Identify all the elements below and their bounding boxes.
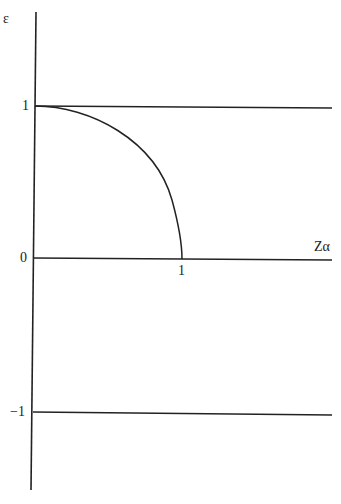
energy-curve [35,106,182,259]
tick-label-x-1: 1 [178,264,185,278]
tick-label-y-0: 0 [20,251,27,265]
y-axis [31,12,36,490]
y-axis-label: ε [3,12,9,26]
tick-label-y-1: 1 [22,99,29,113]
line-epsilon-1 [35,106,332,108]
x-axis-label: Zα [314,240,330,254]
diagram-canvas [0,0,341,504]
x-axis [34,258,332,260]
tick-label-y-minus-1: −1 [10,405,25,419]
line-epsilon-minus-1 [33,412,332,415]
